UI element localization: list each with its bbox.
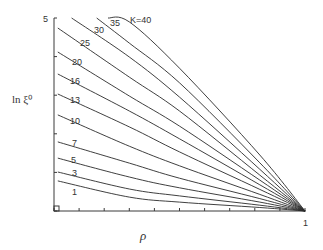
curve-label: K=40: [130, 15, 151, 25]
curve-25: [58, 28, 305, 211]
curve-label: 3: [72, 168, 77, 178]
x-axis-label: ρ: [139, 228, 146, 243]
y-axis-label: ln ξ⁰: [12, 93, 33, 106]
curve-label: 30: [94, 25, 104, 35]
curve-16: [58, 74, 305, 211]
origin-marker: [54, 206, 59, 211]
curve-10: [58, 115, 305, 211]
curves: [58, 17, 305, 211]
curve-label: 35: [110, 18, 120, 28]
curve-30: [72, 18, 305, 211]
curve-3: [58, 172, 305, 211]
curve-label: 25: [80, 38, 90, 48]
curve-label: 5: [71, 155, 76, 165]
curve-label: 10: [70, 116, 80, 126]
x-tick-label-1: 1: [303, 218, 308, 228]
curve-label: 1: [72, 187, 77, 197]
curve-label: 7: [72, 138, 77, 148]
curve-label: 13: [70, 95, 80, 105]
chart: 5 1 ln ξ⁰ ρ K=40353025201613107531: [0, 0, 323, 250]
curve-label: 16: [70, 76, 80, 86]
y-tick-label-5: 5: [43, 14, 48, 24]
curve-k40: [108, 17, 305, 211]
curve-labels: K=40353025201613107531: [70, 15, 151, 197]
curve-label: 20: [72, 57, 82, 67]
